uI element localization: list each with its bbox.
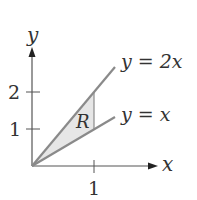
y-tick-label-2: 2: [8, 81, 20, 103]
y-tick-label-1: 1: [9, 118, 21, 140]
region-label-r: R: [75, 111, 90, 132]
x-axis-arrow-icon: [148, 163, 158, 170]
region-diagram: y x 2 1 1 R y = 2x y = x: [0, 0, 197, 200]
y-axis-arrow-icon: [29, 47, 36, 57]
line-label-y-2x: y = 2x: [120, 50, 183, 72]
line-label-y-x: y = x: [120, 103, 171, 125]
y-axis-label: y: [26, 23, 39, 47]
x-tick-label-1: 1: [88, 177, 100, 199]
line-y-equals-2x: [32, 67, 115, 166]
x-axis-label: x: [162, 152, 173, 176]
